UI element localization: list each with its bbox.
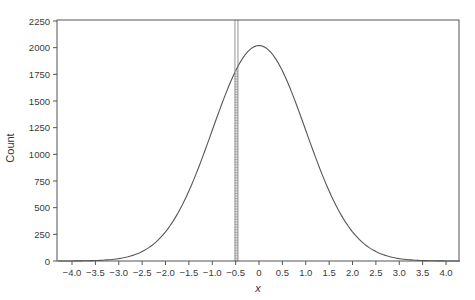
highlighted-bin — [235, 20, 238, 261]
x-tick-label: 1.5 — [323, 267, 336, 278]
y-tick-label: 1250 — [29, 122, 50, 133]
normal-curve — [58, 46, 460, 261]
x-tick-label: 0 — [256, 267, 261, 278]
x-tick-label: 2.0 — [346, 267, 359, 278]
x-tick-label: −0.5 — [226, 267, 245, 278]
x-tick-label: −3.0 — [109, 267, 128, 278]
density-curve-layer — [58, 46, 460, 261]
x-tick-label: 0.5 — [276, 267, 289, 278]
y-tick-label: 2250 — [29, 16, 50, 27]
y-axis-ticks: 0250500750100012501500175020002250 — [29, 16, 57, 267]
x-tick-label: 3.5 — [416, 267, 429, 278]
chart: −4.0−3.5−3.0−2.5−2.0−1.5−1.0−0.500.51.01… — [0, 0, 475, 300]
x-tick-label: −2.0 — [156, 267, 175, 278]
y-tick-label: 250 — [34, 229, 50, 240]
x-tick-label: 2.5 — [369, 267, 382, 278]
x-tick-label: −1.5 — [179, 267, 198, 278]
x-axis-label: x — [254, 282, 261, 294]
y-tick-label: 750 — [34, 176, 50, 187]
y-tick-label: 0 — [45, 256, 50, 267]
y-tick-label: 1500 — [29, 96, 50, 107]
x-tick-label: −4.0 — [63, 267, 82, 278]
x-tick-label: −1.0 — [203, 267, 222, 278]
x-tick-label: 3.0 — [393, 267, 406, 278]
y-tick-label: 2000 — [29, 42, 50, 53]
plot-frame — [57, 20, 459, 261]
y-tick-label: 1000 — [29, 149, 50, 160]
y-axis-label: Count — [4, 133, 16, 162]
y-tick-label: 500 — [34, 202, 50, 213]
x-axis-ticks: −4.0−3.5−3.0−2.5−2.0−1.5−1.0−0.500.51.01… — [63, 261, 453, 278]
x-tick-label: 1.0 — [299, 267, 312, 278]
x-tick-label: −2.5 — [133, 267, 152, 278]
y-tick-label: 1750 — [29, 69, 50, 80]
x-tick-label: 4.0 — [439, 267, 452, 278]
x-tick-label: −3.5 — [86, 267, 105, 278]
